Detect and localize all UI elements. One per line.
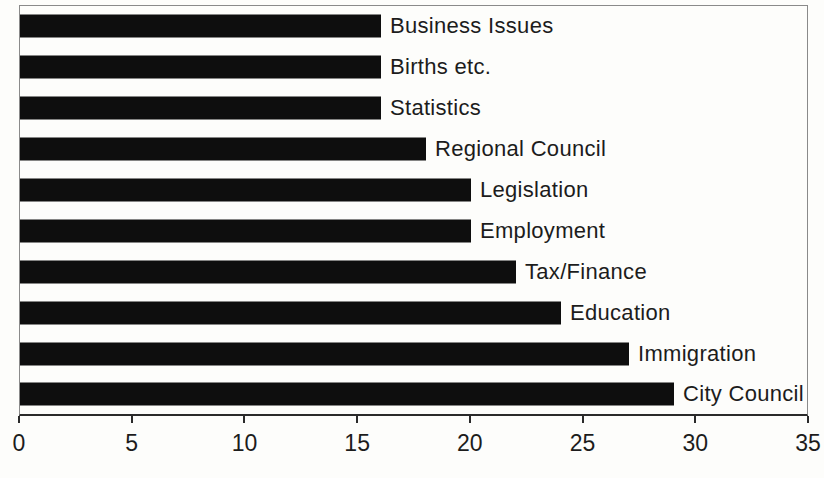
bar-row: Education bbox=[20, 292, 807, 333]
bar-business-issues bbox=[20, 15, 381, 38]
bar-regional-council bbox=[20, 138, 426, 161]
bar-row: Business Issues bbox=[20, 6, 807, 47]
bar-row: Employment bbox=[20, 210, 807, 251]
bar-row: Regional Council bbox=[20, 129, 807, 170]
bar-row: City Council bbox=[20, 374, 807, 415]
x-axis-tick-label: 35 bbox=[795, 430, 821, 457]
bar-row: Immigration bbox=[20, 333, 807, 374]
x-axis-tick-mark bbox=[807, 416, 809, 423]
x-axis-tick-label: 5 bbox=[125, 430, 138, 457]
bar-label: Tax/Finance bbox=[525, 259, 647, 285]
x-axis-tick-mark bbox=[469, 416, 471, 423]
bar-employment bbox=[20, 219, 471, 242]
bar-row: Legislation bbox=[20, 170, 807, 211]
x-axis-tick-label: 0 bbox=[13, 430, 26, 457]
x-axis-tick-label: 25 bbox=[570, 430, 596, 457]
bar-label: Births etc. bbox=[390, 54, 491, 80]
x-axis-tick-label: 10 bbox=[232, 430, 258, 457]
x-axis-tick-label: 20 bbox=[457, 430, 483, 457]
bar-city-council bbox=[20, 383, 674, 406]
x-axis-tick-mark bbox=[356, 416, 358, 423]
bar-label: City Council bbox=[683, 381, 804, 407]
x-axis-tick-label: 30 bbox=[682, 430, 708, 457]
x-axis-tick-mark bbox=[131, 416, 133, 423]
bar-label: Education bbox=[570, 300, 671, 326]
bar-label: Statistics bbox=[390, 95, 481, 121]
bar-tax-finance bbox=[20, 260, 516, 283]
bar-label: Immigration bbox=[638, 341, 756, 367]
bar-education bbox=[20, 301, 561, 324]
x-axis-tick-mark bbox=[18, 416, 20, 423]
x-axis-tick-mark bbox=[694, 416, 696, 423]
bar-chart-figure: Business IssuesBirths etc.StatisticsRegi… bbox=[0, 0, 824, 478]
x-axis: 05101520253035 bbox=[0, 416, 824, 478]
bar-row: Tax/Finance bbox=[20, 251, 807, 292]
bar-births-etc- bbox=[20, 56, 381, 79]
bar-label: Employment bbox=[480, 218, 605, 244]
x-axis-tick-mark bbox=[243, 416, 245, 423]
bar-label: Legislation bbox=[480, 177, 589, 203]
bar-immigration bbox=[20, 342, 629, 365]
bar-label: Regional Council bbox=[435, 136, 606, 162]
plot-area: Business IssuesBirths etc.StatisticsRegi… bbox=[19, 5, 808, 416]
bar-legislation bbox=[20, 179, 471, 202]
bar-label: Business Issues bbox=[390, 13, 553, 39]
bar-row: Statistics bbox=[20, 88, 807, 129]
x-axis-tick-label: 15 bbox=[344, 430, 370, 457]
x-axis-tick-mark bbox=[582, 416, 584, 423]
bar-row: Births etc. bbox=[20, 47, 807, 88]
bar-statistics bbox=[20, 97, 381, 120]
